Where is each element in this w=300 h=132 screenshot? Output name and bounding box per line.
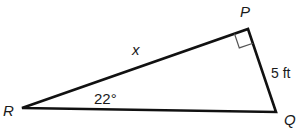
side-label-PQ: 5 ft [271, 65, 291, 81]
triangle-RPQ [22, 29, 276, 112]
vertex-label-Q: Q [284, 111, 296, 128]
triangle-diagram: R P Q x 22° 5 ft [0, 0, 300, 132]
vertex-label-R: R [3, 102, 14, 119]
vertex-label-P: P [240, 3, 250, 20]
side-label-x: x [131, 41, 140, 58]
angle-label-R: 22° [94, 90, 117, 107]
